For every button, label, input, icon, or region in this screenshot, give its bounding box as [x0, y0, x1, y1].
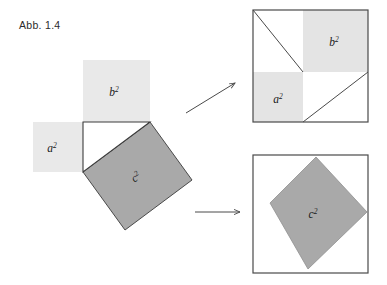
- square-a-shape: [33, 122, 83, 172]
- figure-caption: Abb. 1.4: [19, 19, 61, 31]
- arrow-to-top-panel: [186, 83, 235, 113]
- left-construction-panel: a2 b2 c2: [33, 60, 192, 230]
- figure-container: Abb. 1.4 a2 b2 c2: [0, 0, 387, 285]
- bottom-right-dissection-panel: c2: [253, 155, 368, 273]
- pythagoras-diagram: a2 b2 c2 b2 a2: [0, 0, 387, 285]
- top-right-dissection-panel: b2 a2: [253, 10, 368, 122]
